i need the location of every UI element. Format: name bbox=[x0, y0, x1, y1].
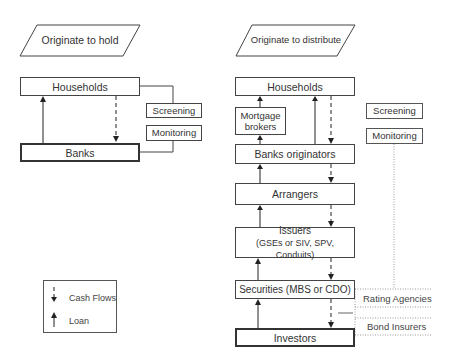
securities-node: Securities (MBS or CDO) bbox=[235, 280, 355, 299]
arrangers-node: Arrangers bbox=[235, 183, 355, 205]
issuers-line1: Issuers bbox=[279, 225, 311, 237]
right-screening-node: Screening bbox=[366, 103, 423, 119]
bond-insurers-label: Bond Insurers bbox=[367, 321, 426, 332]
left-title: Originate to hold bbox=[30, 34, 130, 46]
left-banks-node: Banks bbox=[20, 143, 140, 162]
investors-node: Investors bbox=[235, 328, 355, 347]
left-households-node: Households bbox=[20, 77, 140, 96]
rating-agencies-label: Rating Agencies bbox=[363, 293, 432, 304]
issuers-line2: (GSEs or SIV, SPV, Conduits) bbox=[236, 237, 354, 261]
left-monitoring-node: Monitoring bbox=[146, 125, 202, 141]
mortgage-brokers-line1: Mortgage bbox=[240, 110, 280, 121]
mortgage-brokers-node: Mortgage brokers bbox=[235, 107, 286, 135]
mortgage-brokers-line2: brokers bbox=[245, 121, 277, 132]
left-screening-node: Screening bbox=[146, 103, 202, 118]
legend-loan-label: Loan bbox=[69, 316, 89, 326]
banks-originators-node: Banks originators bbox=[235, 144, 355, 164]
right-title: Originate to distribute bbox=[240, 34, 352, 45]
legend-cash-flows-label: Cash Flows bbox=[69, 293, 116, 303]
right-monitoring-node: Monitoring bbox=[366, 128, 423, 144]
right-households-node: Households bbox=[235, 77, 355, 96]
diagram-connectors bbox=[0, 0, 450, 363]
issuers-node: Issuers (GSEs or SIV, SPV, Conduits) bbox=[235, 227, 355, 258]
